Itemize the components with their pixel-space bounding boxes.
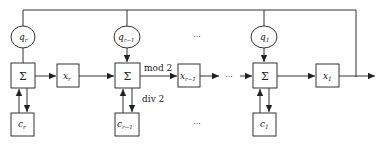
q-r-1-label: qr−1 <box>118 32 135 43</box>
mod-2-label: mod 2 <box>144 63 172 73</box>
sum-r-label: Σ <box>19 70 27 83</box>
q-1-label: q1 <box>260 32 270 43</box>
bottom-ellipsis: ··· <box>193 119 201 128</box>
c-r-label: cr <box>18 119 27 130</box>
div-2-label: div 2 <box>142 94 164 104</box>
x-r-1-label: xr−1 <box>180 71 196 82</box>
top-ellipsis: ··· <box>193 32 201 41</box>
block-diagram: qr qr−1 q1 Σ Σ Σ xr xr−1 x1 cr cr−1 c1 m… <box>0 0 382 144</box>
sum-1-label: Σ <box>261 70 269 83</box>
x-r-label: xr <box>63 71 72 82</box>
sum-r-1-label: Σ <box>124 70 132 83</box>
x-1-label: x1 <box>323 71 332 82</box>
c-r-1-label: cr−1 <box>117 119 133 130</box>
q-r-label: qr <box>19 32 29 43</box>
feedback-line <box>23 10 356 77</box>
middle-ellipsis: ··· <box>225 72 233 81</box>
c-1-label: c1 <box>260 119 269 130</box>
